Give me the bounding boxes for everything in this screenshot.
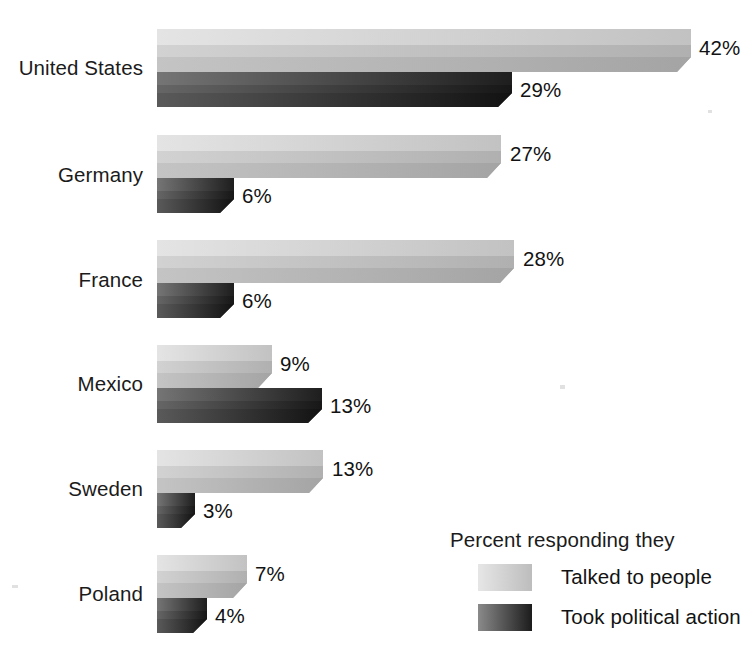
bar-germany-talked[interactable] [157,135,501,178]
value-label-poland-action: 4% [215,604,245,628]
bar-sweden-talked[interactable] [157,450,323,493]
value-label-germany-talked: 27% [510,142,551,166]
bar-shape-light [157,240,514,283]
category-label-france: France [0,268,143,292]
category-label-poland: Poland [0,582,143,606]
category-label-mexico: Mexico [0,372,143,396]
bar-sweden-action[interactable] [157,493,195,528]
bar-shape-light [157,555,247,598]
legend-item-talked-to-people[interactable]: Talked to people [478,564,756,594]
value-label-mexico-talked: 9% [280,352,310,376]
bar-poland-action[interactable] [157,598,207,633]
scan-speck [560,385,565,389]
value-label-france-talked: 28% [523,247,564,271]
category-label-germany: Germany [0,163,143,187]
bar-group-poland: Poland 7% 4% [0,0,756,120]
bar-shape-light [157,345,272,388]
value-label-poland-talked: 7% [255,562,285,586]
value-label-mexico-action: 13% [330,394,371,418]
legend-swatch-light [478,564,532,591]
legend-item-took-political-action[interactable]: Took political action [478,604,756,634]
bar-shape-dark [157,178,234,213]
bar-poland-talked[interactable] [157,555,247,598]
legend-label-took-political-action: Took political action [561,605,741,629]
bar-shape-dark [157,598,207,633]
bar-shape-light [157,450,323,493]
value-label-france-action: 6% [242,289,272,313]
legend-swatch-dark [478,604,532,631]
bar-france-action[interactable] [157,283,234,318]
bar-shape-dark [157,283,234,318]
bar-chart: United States 42% [0,0,756,648]
bar-france-talked[interactable] [157,240,514,283]
bar-shape-dark [157,493,195,528]
legend-label-talked-to-people: Talked to people [561,565,712,589]
value-label-sweden-action: 3% [203,499,233,523]
bar-mexico-action[interactable] [157,388,322,423]
value-label-germany-action: 6% [242,184,272,208]
legend: Percent responding they Talked to people [450,528,756,638]
value-label-sweden-talked: 13% [332,457,373,481]
bar-shape-light [157,135,501,178]
category-label-sweden: Sweden [0,477,143,501]
bar-mexico-talked[interactable] [157,345,272,388]
bar-germany-action[interactable] [157,178,234,213]
bar-shape-dark [157,388,322,423]
legend-title: Percent responding they [450,528,675,552]
